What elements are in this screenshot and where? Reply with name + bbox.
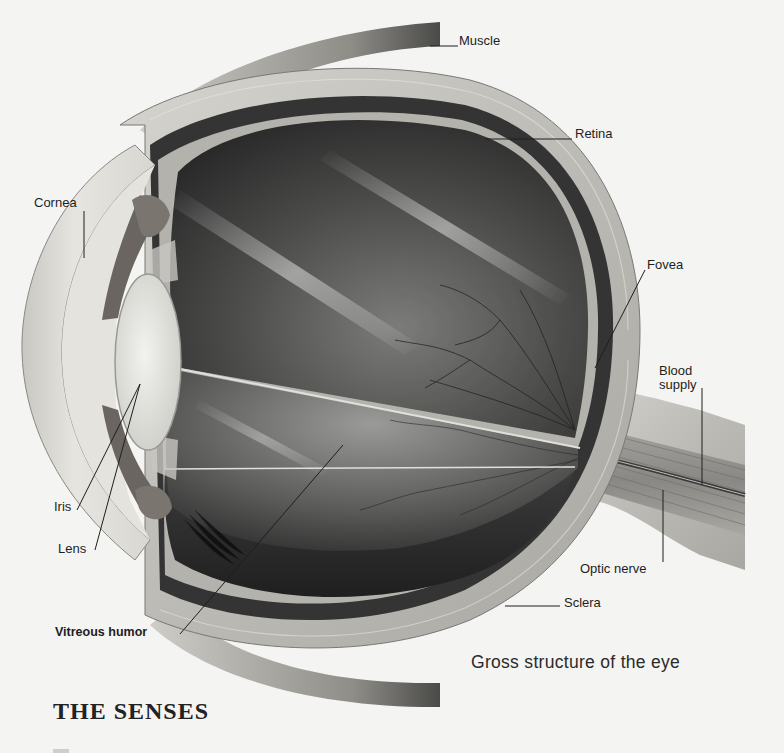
lens	[115, 274, 181, 450]
label-lens: Lens	[58, 542, 86, 556]
label-muscle: Muscle	[459, 34, 500, 48]
label-optic-nerve: Optic nerve	[580, 562, 646, 576]
section-heading: THE SENSES	[53, 698, 209, 725]
label-blood-supply-line2: supply	[659, 377, 697, 392]
next-text-fragment	[53, 749, 69, 753]
label-retina: Retina	[575, 127, 613, 141]
label-vitreous-humor: Vitreous humor	[55, 626, 147, 639]
eye-diagram: Muscle Retina Cornea Fovea Blood supply …	[0, 0, 784, 753]
figure-caption: Gross structure of the eye	[471, 652, 680, 673]
label-sclera: Sclera	[564, 596, 601, 610]
label-cornea: Cornea	[34, 196, 77, 210]
label-blood-supply: Blood supply	[659, 364, 697, 391]
label-iris: Iris	[54, 500, 71, 514]
label-fovea: Fovea	[647, 258, 683, 272]
